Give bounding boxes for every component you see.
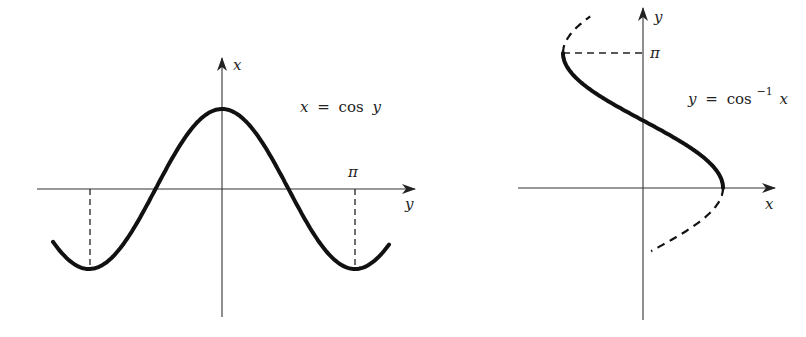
- arccos-dashed-upper: [563, 17, 590, 54]
- left-figure: x y π x = cos y: [37, 56, 415, 317]
- left-pi-tick-label: π: [347, 163, 359, 181]
- left-vertical-axis-label: x: [233, 56, 242, 74]
- right-vertical-axis-label: y: [653, 8, 663, 26]
- right-figure: y x π y = cos −1 x: [518, 8, 789, 320]
- figure-canvas: x y π x = cos y y x π y = cos −1 x: [0, 0, 806, 337]
- arccos-dashed-lower: [651, 188, 723, 251]
- right-pi-tick-label: π: [649, 44, 661, 62]
- left-horizontal-axis-label: y: [404, 195, 414, 213]
- left-equation: x = cos y: [300, 98, 382, 116]
- right-horizontal-axis-label: x: [765, 195, 774, 213]
- right-equation: y = cos −1 x: [687, 81, 789, 108]
